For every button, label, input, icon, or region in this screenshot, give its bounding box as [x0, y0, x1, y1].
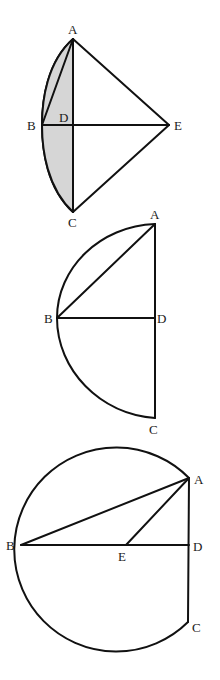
label-d: D — [157, 311, 166, 326]
label-d: D — [193, 539, 202, 554]
circle-arc — [14, 447, 189, 651]
label-a: A — [68, 22, 78, 37]
label-e: E — [118, 549, 126, 564]
figure-1: A B D E C — [27, 22, 182, 230]
label-b: B — [44, 311, 53, 326]
label-c: C — [149, 422, 158, 437]
geometry-diagrams: A B D E C A B D C A B E D C — [0, 0, 220, 680]
segment-ae — [73, 39, 169, 125]
label-a: A — [150, 207, 160, 222]
segment-ae — [126, 478, 189, 545]
label-b: B — [27, 118, 36, 133]
semicircle-arc — [57, 224, 155, 418]
figure-3: A B E D C — [6, 447, 204, 651]
label-e: E — [174, 118, 182, 133]
label-c: C — [68, 215, 77, 230]
figure-2: A B D C — [44, 207, 166, 437]
label-b: B — [6, 538, 15, 553]
label-a: A — [194, 472, 204, 487]
segment-ec — [73, 125, 169, 212]
label-d: D — [59, 110, 68, 125]
segment-ab — [21, 478, 189, 545]
label-c: C — [192, 620, 201, 635]
segment-ac — [188, 478, 189, 622]
